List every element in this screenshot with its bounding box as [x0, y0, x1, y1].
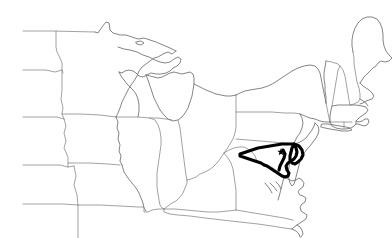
- map-canvas: Outline map of the eastern and midwester…: [0, 0, 392, 238]
- map-background: [0, 0, 392, 238]
- us-outline-map: Outline map of the eastern and midwester…: [0, 0, 392, 238]
